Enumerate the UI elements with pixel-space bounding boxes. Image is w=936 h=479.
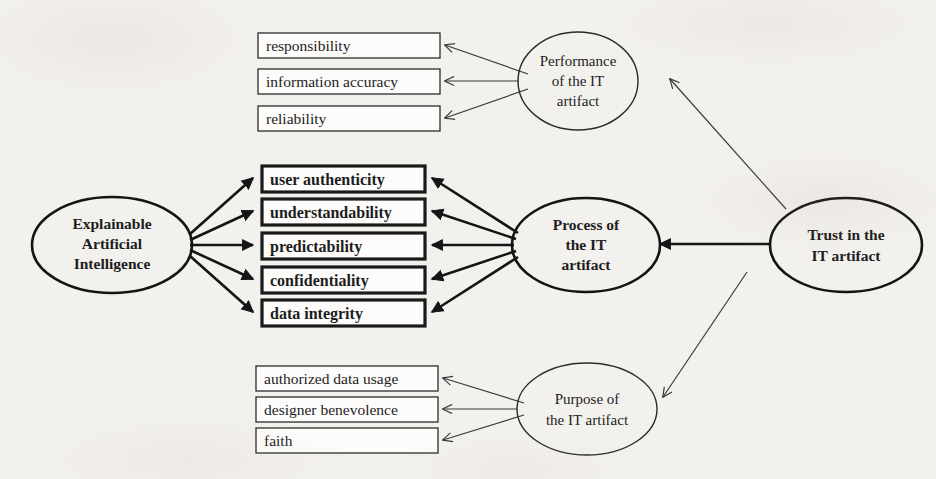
- performance-attribute-box[interactable]: responsibility: [258, 33, 440, 58]
- node-explainable-artificial-intelligence[interactable]: Explainable Artificial Intelligence: [32, 197, 192, 293]
- process-attribute-label: data integrity: [270, 305, 363, 323]
- xai-label-line-2: Artificial: [82, 235, 143, 252]
- edge-trust-to-performance: [670, 79, 786, 209]
- process-label-line-1: Process of: [553, 216, 620, 233]
- xai-label-line-1: Explainable: [72, 215, 151, 232]
- edge-xai-to-attributes: [190, 178, 253, 312]
- process-attribute-box[interactable]: understandability: [262, 199, 425, 225]
- purpose-attribute-label: designer benevolence: [264, 401, 398, 418]
- process-attribute-box[interactable]: predictability: [262, 233, 425, 259]
- process-attribute-box[interactable]: confidentiality: [262, 267, 425, 293]
- edge-purpose-to-attributes: [443, 378, 524, 440]
- edge-trust-to-purpose: [663, 272, 747, 397]
- node-trust-in-the-it-artifact[interactable]: Trust in the IT artifact: [770, 198, 922, 292]
- process-label-line-2: the IT: [566, 236, 608, 253]
- node-performance-of-the-it-artifact[interactable]: Performance of the IT artifact: [518, 32, 638, 130]
- performance-attribute-label: reliability: [266, 110, 327, 127]
- purpose-attribute-label: authorized data usage: [264, 370, 398, 387]
- process-attribute-label: predictability: [270, 238, 362, 256]
- process-attribute-label: confidentiality: [270, 272, 369, 290]
- purpose-attribute-box[interactable]: designer benevolence: [256, 397, 438, 422]
- node-purpose-of-the-it-artifact[interactable]: Purpose of the IT artifact: [517, 363, 657, 455]
- node-process-of-the-it-artifact[interactable]: Process of the IT artifact: [512, 198, 660, 292]
- edge-process-to-attributes: [432, 178, 518, 312]
- purpose-label-line-1: Purpose of: [555, 391, 620, 407]
- performance-attribute-label: responsibility: [266, 37, 351, 54]
- process-attribute-box[interactable]: user authenticity: [262, 166, 425, 192]
- xai-label-line-3: Intelligence: [74, 255, 151, 272]
- process-attribute-label: understandability: [270, 204, 392, 222]
- purpose-attribute-label: faith: [264, 432, 293, 449]
- process-attribute-label: user authenticity: [270, 171, 385, 189]
- performance-label-line-1: Performance: [540, 53, 617, 69]
- trust-label-line-1: Trust in the: [807, 226, 884, 243]
- process-attribute-box[interactable]: data integrity: [262, 300, 425, 326]
- process-label-line-3: artifact: [561, 256, 611, 273]
- performance-attribute-label: information accuracy: [266, 73, 398, 90]
- trust-label-line-2: IT artifact: [811, 247, 881, 264]
- performance-label-line-3: artifact: [557, 93, 600, 109]
- edge-performance-to-attributes: [445, 45, 528, 118]
- purpose-label-line-2: the IT artifact: [546, 412, 629, 428]
- purpose-attribute-box[interactable]: faith: [256, 428, 438, 453]
- diagram-svg: responsibility information accuracy reli…: [0, 0, 936, 479]
- performance-attribute-box[interactable]: information accuracy: [258, 69, 440, 94]
- diagram-canvas: responsibility information accuracy reli…: [0, 0, 936, 479]
- performance-attribute-box[interactable]: reliability: [258, 106, 440, 131]
- purpose-attribute-box[interactable]: authorized data usage: [256, 366, 438, 391]
- performance-label-line-2: of the IT: [552, 73, 604, 89]
